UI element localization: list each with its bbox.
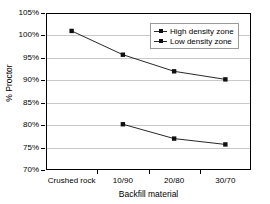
legend-marker-icon bbox=[154, 27, 167, 36]
data-point-marker bbox=[172, 69, 176, 73]
proctor-density-line-chart: % Proctor 70%75%80%85%90%95%100%105% Cru… bbox=[0, 0, 270, 204]
data-point-marker bbox=[223, 77, 227, 81]
data-point-marker bbox=[121, 53, 125, 57]
data-point-marker bbox=[121, 122, 125, 126]
data-point-marker bbox=[69, 29, 73, 33]
data-point-marker bbox=[172, 136, 176, 140]
legend-marker-icon bbox=[154, 37, 167, 46]
series-line bbox=[123, 124, 226, 144]
chart-legend: High density zone Low density zone bbox=[150, 23, 239, 49]
legend-item: Low density zone bbox=[154, 36, 234, 46]
legend-item: High density zone bbox=[154, 26, 234, 36]
legend-item-label: Low density zone bbox=[170, 37, 232, 46]
legend-item-label: High density zone bbox=[170, 27, 234, 36]
data-point-marker bbox=[223, 142, 227, 146]
